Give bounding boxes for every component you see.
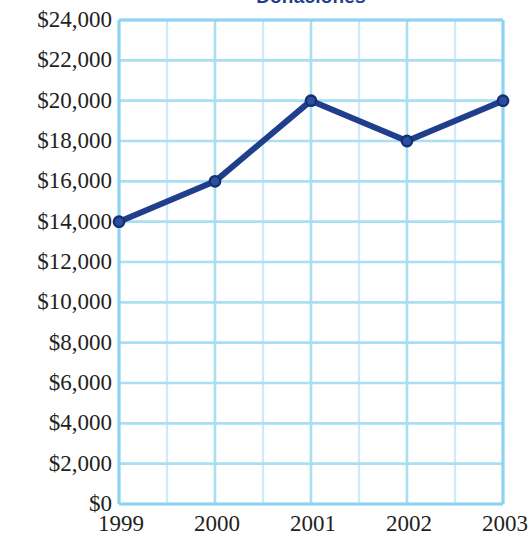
plot-area bbox=[119, 20, 503, 504]
y-tick-label: $16,000 bbox=[0, 169, 112, 192]
data-point bbox=[210, 176, 220, 186]
x-tick-label: 1999 bbox=[98, 510, 144, 538]
y-tick-label: $10,000 bbox=[0, 290, 112, 313]
data-point bbox=[402, 136, 412, 146]
x-tick-label: 2001 bbox=[290, 510, 336, 538]
y-tick-label: $4,000 bbox=[0, 411, 112, 434]
y-tick-label: $22,000 bbox=[0, 48, 112, 71]
y-tick-label: $8,000 bbox=[0, 331, 112, 354]
x-tick-label: 2003 bbox=[482, 510, 528, 538]
x-tick-label: 2002 bbox=[386, 510, 432, 538]
y-tick-label: $2,000 bbox=[0, 452, 112, 475]
chart-title: Donaciones bbox=[119, 0, 503, 6]
y-axis: $24,000$22,000$20,000$18,000$16,000$14,0… bbox=[0, 0, 112, 542]
y-tick-label: $24,000 bbox=[0, 8, 112, 31]
x-axis: 19992000200120022003 bbox=[0, 510, 531, 542]
y-tick-label: $20,000 bbox=[0, 89, 112, 112]
data-point bbox=[498, 95, 508, 105]
data-point bbox=[306, 95, 316, 105]
y-tick-label: $6,000 bbox=[0, 371, 112, 394]
y-tick-label: $18,000 bbox=[0, 129, 112, 152]
y-tick-label: $12,000 bbox=[0, 250, 112, 273]
donaciones-line-chart: Donaciones $24,000$22,000$20,000$18,000$… bbox=[0, 0, 531, 542]
data-point bbox=[114, 216, 124, 226]
x-tick-label: 2000 bbox=[194, 510, 240, 538]
y-tick-label: $14,000 bbox=[0, 210, 112, 233]
plot-svg bbox=[119, 20, 503, 504]
